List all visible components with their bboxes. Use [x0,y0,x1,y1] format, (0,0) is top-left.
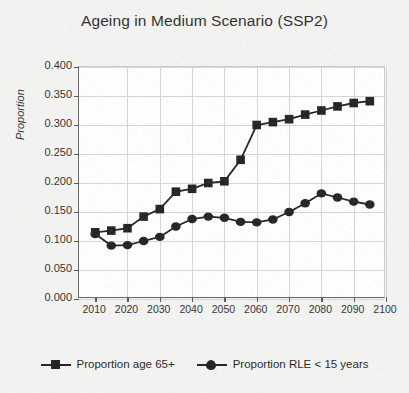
y-tick-label: 0.100 [28,233,72,245]
x-tick-label: 2060 [244,303,267,315]
data-point-square [285,115,294,124]
y-axis-tick-labels: 0.4000.3500.3000.2500.2000.1500.1000.050… [28,0,72,393]
data-point-diamond [349,197,359,205]
data-point-diamond [187,215,197,223]
legend-item-age65: Proportion age 65+ [41,358,175,370]
data-point-diamond [155,233,165,241]
gridline-vertical [386,67,387,297]
data-point-diamond [139,237,149,245]
data-point-square [252,121,261,130]
diamond-marker-icon [197,358,227,370]
x-axis-tick [289,297,290,302]
x-axis-tick [160,297,161,302]
data-point-square [188,185,197,194]
data-point-square [333,102,342,111]
y-tick-label: 0.150 [28,204,72,216]
legend-item-rle: Proportion RLE < 15 years [197,358,369,370]
data-point-square [366,97,375,106]
y-axis-tick [74,241,79,242]
legend-label-rle: Proportion RLE < 15 years [233,358,369,370]
chart-legend: Proportion age 65+ Proportion RLE < 15 y… [0,352,409,376]
y-tick-label: 0.350 [28,88,72,100]
data-point-square [269,118,278,127]
chart-figure: Ageing in Medium Scenario (SSP2) Proport… [0,0,409,393]
x-tick-label: 2050 [212,303,235,315]
data-point-diamond [333,193,343,201]
series-line [95,101,370,232]
data-point-square [220,177,229,186]
x-axis-tick-labels: 2010202020302040205020602070208020902100 [0,303,409,323]
x-tick-label: 2020 [115,303,138,315]
x-axis-tick [321,297,322,302]
gridline-horizontal [79,270,384,271]
y-tick-label: 0.200 [28,175,72,187]
data-point-square [236,156,245,165]
x-axis-tick [127,297,128,302]
x-tick-label: 2080 [309,303,332,315]
y-tick-label: 0.250 [28,146,72,158]
data-point-diamond [252,218,262,226]
data-point-square [156,205,165,214]
data-point-diamond [107,241,117,249]
data-point-square [204,179,213,188]
x-tick-label: 2030 [147,303,170,315]
legend-label-age65: Proportion age 65+ [77,358,175,370]
x-tick-label: 2040 [179,303,202,315]
y-tick-label: 0.400 [28,59,72,71]
x-axis-tick [95,297,96,302]
data-point-square [301,110,310,119]
data-point-diamond [268,215,278,223]
y-axis-tick [74,299,79,300]
data-point-diamond [90,230,100,238]
data-point-square [172,187,181,196]
data-point-diamond [204,212,214,220]
data-point-square [107,226,116,235]
y-tick-label: 0.000 [28,291,72,303]
x-tick-label: 2100 [373,303,396,315]
data-point-diamond [220,214,230,222]
x-axis-tick [354,297,355,302]
data-series-layer [79,67,379,217]
x-tick-label: 2090 [341,303,364,315]
data-point-square [139,212,148,221]
y-axis-tick [74,270,79,271]
data-point-diamond [300,199,310,207]
x-axis-tick [224,297,225,302]
data-point-diamond [317,189,327,197]
plot-area [78,66,385,298]
x-axis-tick [386,297,387,302]
gridline-horizontal [79,299,384,300]
y-tick-label: 0.300 [28,117,72,129]
x-tick-label: 2070 [276,303,299,315]
data-point-square [349,99,358,108]
data-point-square [317,106,326,115]
data-point-diamond [365,200,375,208]
y-tick-label: 0.050 [28,262,72,274]
data-point-diamond [236,218,246,226]
x-tick-label: 2010 [82,303,105,315]
data-point-diamond [171,222,181,230]
x-axis-tick [192,297,193,302]
x-axis-tick [257,297,258,302]
data-point-diamond [123,241,133,249]
data-point-square [123,224,132,233]
data-point-diamond [284,208,294,216]
square-marker-icon [41,358,71,370]
y-axis-title: Proportion [14,89,26,140]
